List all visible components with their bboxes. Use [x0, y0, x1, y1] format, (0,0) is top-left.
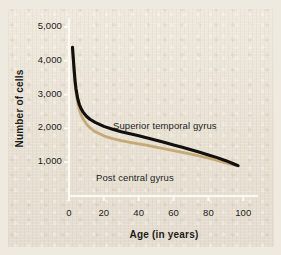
x-axis-tick-label: 100	[223, 207, 263, 218]
series-label-superior-temporal-gyrus: Superior temporal gyrus	[113, 120, 217, 131]
series-label-post-central-gyrus: Post central gyrus	[96, 172, 174, 183]
y-axis-tick-label: 5,000	[20, 20, 62, 31]
chart-figure: 1,0002,0003,0004,0005,000 020406080100 N…	[0, 0, 281, 255]
y-axis-title: Number of cells	[14, 63, 25, 155]
x-axis-title: Age (in years)	[64, 229, 264, 240]
y-axis-tick-label: 1,000	[20, 155, 62, 166]
y-axis-tick-label: 3,000	[20, 88, 62, 99]
series-line-post-central-gyrus	[72, 47, 238, 166]
series-group	[72, 47, 238, 166]
y-axis-tick-label: 4,000	[20, 54, 62, 65]
y-axis-tick-label: 2,000	[20, 121, 62, 132]
